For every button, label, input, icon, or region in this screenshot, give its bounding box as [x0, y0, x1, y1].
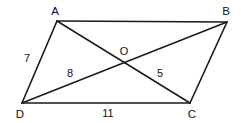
measure-label-side-da: 7: [24, 53, 30, 64]
measure-label-segment-oc: 5: [157, 68, 163, 79]
vertex-label-a: A: [51, 6, 59, 17]
vertex-label-d: D: [16, 109, 24, 120]
vertex-label-b: B: [222, 6, 230, 17]
figure-canvas: [0, 0, 241, 123]
diagonal-ac: [57, 21, 190, 103]
edge-ab: [57, 21, 227, 22]
intersection-label-o: O: [120, 46, 129, 57]
measure-label-side-dc: 11: [102, 108, 113, 119]
measure-label-segment-do: 8: [67, 68, 73, 79]
geometry-figure: A B C D O 7 8 5 11: [0, 0, 241, 123]
vertex-label-c: C: [188, 109, 196, 120]
